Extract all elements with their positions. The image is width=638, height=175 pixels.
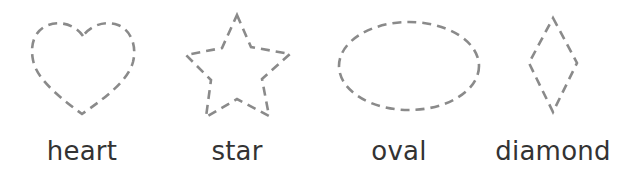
- diamond-icon: [529, 18, 577, 112]
- heart-label: heart: [47, 136, 117, 166]
- star-icon: [186, 15, 290, 117]
- oval-icon: [339, 22, 479, 110]
- diamond-label: diamond: [495, 136, 610, 166]
- oval-label: oval: [371, 136, 426, 166]
- star-label: star: [211, 136, 262, 166]
- shapes-worksheet: heart star oval diamond: [0, 0, 638, 175]
- heart-icon: [32, 23, 134, 114]
